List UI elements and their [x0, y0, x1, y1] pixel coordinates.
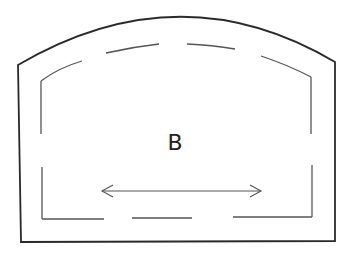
inner-arch-dash-1: [41, 61, 82, 81]
region-label: B: [167, 130, 182, 155]
diagram-canvas: B: [0, 0, 355, 259]
inner-arch-dash-2: [106, 44, 159, 53]
inner-arch-dash-4: [261, 56, 311, 77]
inner-arch-dash-3: [187, 44, 235, 49]
double-arrow-icon: [102, 185, 261, 197]
